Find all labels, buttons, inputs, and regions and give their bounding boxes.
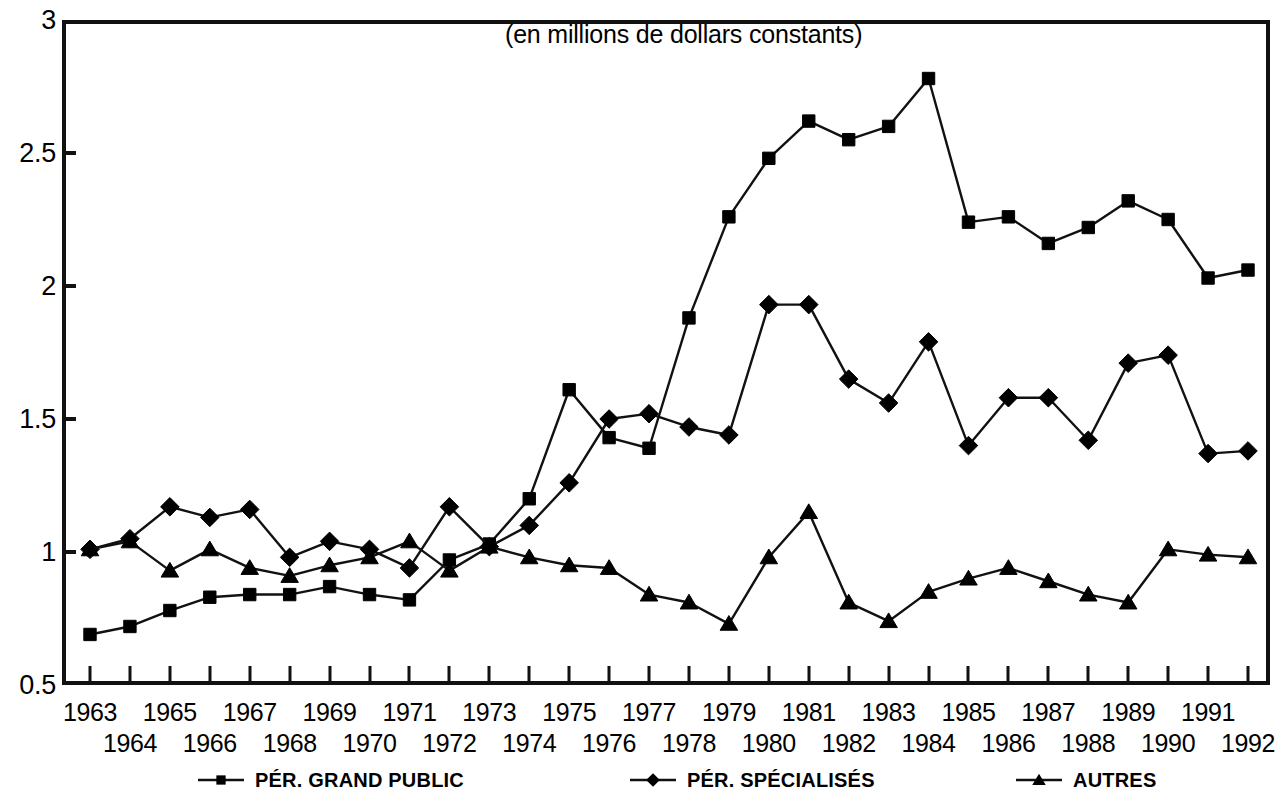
chart-page: 0.511.522.53 (en millions de dollars con… xyxy=(0,0,1281,804)
x-axis-tick xyxy=(368,666,371,685)
x-axis-tick-label: 1971 xyxy=(382,700,436,725)
x-axis-tick xyxy=(967,666,970,685)
x-axis-tick-label: 1988 xyxy=(1061,731,1115,756)
series-line xyxy=(90,512,1248,624)
y-axis-tick-label: 2 xyxy=(41,273,56,300)
data-point xyxy=(763,152,775,164)
x-axis-tick-label: 1975 xyxy=(542,700,596,725)
x-axis-tick xyxy=(727,666,730,685)
data-point xyxy=(164,604,176,616)
data-point xyxy=(962,216,974,228)
square-marker-icon xyxy=(196,772,246,788)
x-axis-tick-label: 1963 xyxy=(63,700,117,725)
data-point xyxy=(1199,444,1218,463)
legend-item-square[interactable]: PÉR. GRAND PUBLIC xyxy=(196,770,464,790)
data-point xyxy=(1042,237,1054,249)
data-point xyxy=(563,384,575,396)
x-axis-tick-label: 1966 xyxy=(183,731,237,756)
x-axis-tick xyxy=(807,666,810,685)
data-point xyxy=(1202,272,1214,284)
x-axis-tick xyxy=(128,666,131,685)
data-point xyxy=(880,613,898,628)
x-axis-tick xyxy=(488,666,491,685)
x-axis-tick xyxy=(1207,666,1210,685)
data-point xyxy=(1242,264,1254,276)
x-axis-tick xyxy=(408,666,411,685)
data-point xyxy=(882,120,894,132)
x-axis-tick-label: 1986 xyxy=(981,731,1035,756)
data-point xyxy=(760,295,779,314)
x-axis-tick-label: 1979 xyxy=(702,700,756,725)
y-axis-tick-label: 1 xyxy=(41,539,56,566)
series-line xyxy=(90,79,1248,635)
x-axis-tick xyxy=(1247,666,1250,685)
x-axis-tick xyxy=(168,666,171,685)
data-point xyxy=(840,594,858,609)
x-axis-tick xyxy=(328,666,331,685)
x-axis-tick xyxy=(608,666,611,685)
legend-label: AUTRES xyxy=(1073,770,1156,790)
x-axis-tick xyxy=(248,666,251,685)
x-axis-tick-label: 1976 xyxy=(582,731,636,756)
data-point xyxy=(839,370,858,389)
x-axis-tick-label: 1977 xyxy=(622,700,676,725)
data-point xyxy=(720,616,738,631)
data-point xyxy=(1159,541,1177,556)
x-axis-tick xyxy=(528,666,531,685)
x-axis-tick-label: 1987 xyxy=(1021,700,1075,725)
series-line xyxy=(90,305,1248,568)
x-axis-tick-label: 1982 xyxy=(822,731,876,756)
data-point xyxy=(523,493,535,505)
x-axis-tick-label: 1967 xyxy=(223,700,277,725)
x-axis-tick xyxy=(648,666,651,685)
plot-area xyxy=(62,20,1270,685)
data-point xyxy=(1162,213,1174,225)
data-point xyxy=(643,442,655,454)
triangle-marker-icon xyxy=(1014,772,1064,788)
data-point xyxy=(323,580,335,592)
data-point xyxy=(1119,354,1138,373)
x-axis-tick xyxy=(927,666,930,685)
data-point xyxy=(922,72,934,84)
legend-item-triangle[interactable]: AUTRES xyxy=(1014,770,1156,790)
x-axis-tick xyxy=(1167,666,1170,685)
data-point xyxy=(363,588,375,600)
x-axis-tick xyxy=(448,666,451,685)
y-axis-tick-label: 2.5 xyxy=(19,140,56,167)
series-triangle xyxy=(81,504,1257,630)
x-axis-tick-label: 1981 xyxy=(782,700,836,725)
data-point xyxy=(161,562,179,577)
y-axis-tick-label: 1.5 xyxy=(19,406,56,433)
x-axis-tick-label: 1974 xyxy=(502,731,556,756)
data-point xyxy=(201,508,220,527)
legend-label: PÉR. SPÉCIALISÉS xyxy=(687,770,875,790)
data-point xyxy=(1000,560,1018,575)
x-axis-tick xyxy=(767,666,770,685)
x-axis-tick-label: 1973 xyxy=(462,700,516,725)
x-axis-tick-label: 1969 xyxy=(303,700,357,725)
data-point xyxy=(84,628,96,640)
data-point xyxy=(1002,211,1014,223)
data-point xyxy=(124,620,136,632)
data-point xyxy=(600,410,619,429)
data-point xyxy=(683,312,695,324)
x-axis-tick xyxy=(1127,666,1130,685)
legend-item-diamond[interactable]: PÉR. SPÉCIALISÉS xyxy=(628,770,875,790)
x-axis-tick xyxy=(288,666,291,685)
data-point xyxy=(1159,346,1178,365)
data-point xyxy=(241,560,258,575)
data-point xyxy=(400,559,419,578)
series-square xyxy=(84,72,1254,640)
diamond-marker-icon xyxy=(628,772,678,788)
x-axis-tick xyxy=(1007,666,1010,685)
x-axis-tick-label: 1983 xyxy=(862,700,916,725)
x-axis-tick-label: 1965 xyxy=(143,700,197,725)
y-axis-tick-label: 3 xyxy=(41,7,56,34)
data-point xyxy=(640,586,658,601)
data-point xyxy=(603,431,615,443)
legend-label: PÉR. GRAND PUBLIC xyxy=(255,770,464,790)
data-point xyxy=(842,134,854,146)
chart-title: (en millions de dollars constants) xyxy=(505,22,862,47)
series-diamond xyxy=(81,295,1258,577)
x-axis-tick-label: 1978 xyxy=(662,731,716,756)
